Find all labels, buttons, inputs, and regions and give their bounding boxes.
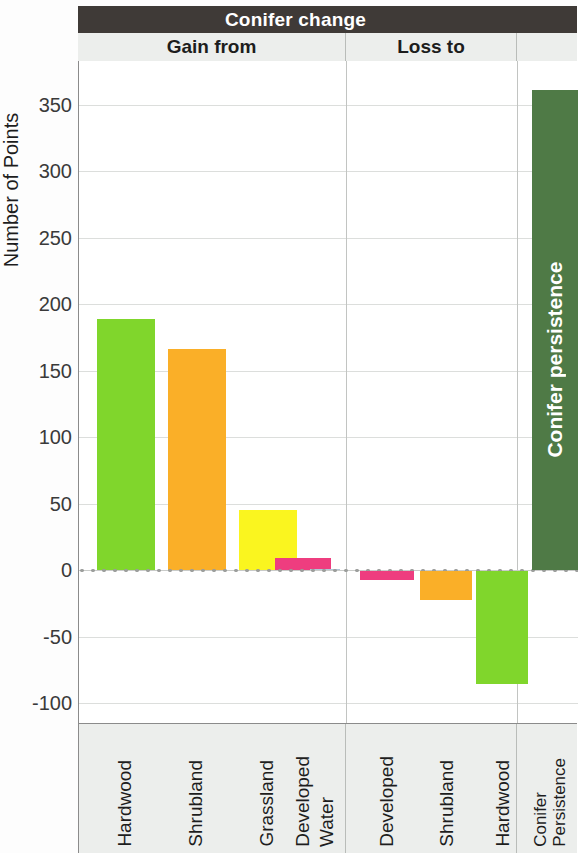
bar-gain-shrubland [168,349,226,570]
bar-gain-hardwood [97,319,155,570]
x-label-conifer-persistence: Conifer Persistence [531,758,569,847]
gridline-300 [79,171,578,172]
bar-loss-hardwood [476,571,528,684]
section-header-loss-to: Loss to [345,33,516,61]
x-label-loss-hardwood: Hardwood [493,760,513,847]
x-label-conifer-line1: Conifer [531,792,550,847]
gridline-200 [79,304,578,305]
y-tick-150: 150 [6,360,72,383]
banner-title: Conifer change [225,9,366,31]
bar-loss-shrubland [420,571,472,600]
y-tick-50: 50 [6,493,72,516]
gridline-350 [79,105,578,106]
chart-banner: Conifer change [78,6,577,33]
gridline-neg100 [79,703,578,704]
y-axis-label: Number of Points [0,80,23,300]
x-label-gain-water: Water [317,797,337,847]
x-label-gain-shrubland: Shrubland [186,760,206,847]
bar-conifer-persistence-label: Conifer persistence [532,170,578,550]
section-header-gain-from: Gain from [78,33,345,61]
x-axis-label-band: Hardwood Shrubland Grassland Developed W… [78,723,577,853]
x-label-gain-developed: Developed [293,756,313,847]
y-tick-0: 0 [6,559,72,582]
y-tick-100: 100 [6,426,72,449]
bar-loss-developed [360,571,414,580]
section-header-persistence [516,33,577,61]
x-label-loss-shrubland: Shrubland [437,760,457,847]
section-header-band: Gain from Loss to [78,33,577,61]
x-label-gain-hardwood: Hardwood [115,760,135,847]
y-tick-neg100: -100 [6,692,72,715]
plot-area: Conifer persistence [78,61,577,723]
xband-divider-loss-persistence [516,724,517,853]
xband-divider-gain-loss [345,724,346,853]
y-tick-neg50: -50 [6,626,72,649]
x-label-loss-developed: Developed [377,756,397,847]
x-label-gain-grassland: Grassland [257,760,277,847]
panel-divider-gain-loss [346,61,347,723]
x-label-conifer-line2: Persistence [550,758,569,847]
gridline-250 [79,238,578,239]
